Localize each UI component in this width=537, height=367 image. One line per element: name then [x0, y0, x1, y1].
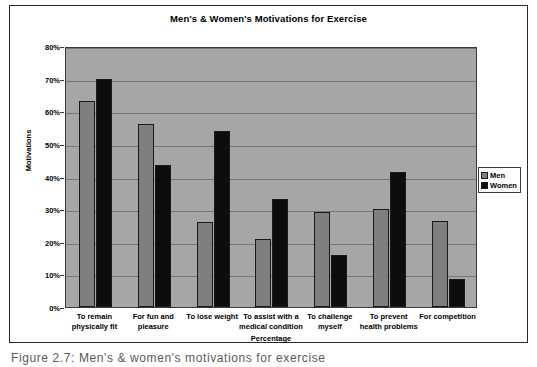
bar-group	[125, 48, 184, 307]
y-axis-tick: 10%	[16, 271, 60, 280]
y-axis-tick: 60%	[16, 108, 60, 117]
y-axis-tick: 80%	[16, 43, 60, 52]
legend-swatch-icon	[481, 182, 488, 189]
bar-group	[243, 48, 302, 307]
bar-group	[301, 48, 360, 307]
legend-swatch-icon	[481, 172, 488, 179]
bar-women[interactable]	[155, 165, 171, 307]
bar-group	[360, 48, 419, 307]
bar-men[interactable]	[255, 239, 271, 308]
plot-area	[65, 47, 477, 308]
y-axis-tick-labels: 0%10%20%30%40%50%60%70%80%	[10, 47, 60, 308]
bar-women[interactable]	[214, 131, 230, 307]
y-axis-tick: 40%	[16, 173, 60, 182]
y-axis-tick: 70%	[16, 75, 60, 84]
legend-label: Men	[490, 171, 505, 180]
bar-women[interactable]	[331, 255, 347, 307]
legend-item[interactable]: Men	[481, 170, 517, 180]
bar-men[interactable]	[138, 124, 154, 307]
legend-item[interactable]: Women	[481, 180, 517, 190]
y-axis-tick-mark	[60, 275, 64, 276]
figure-caption: Figure 2.7: Men's & women's motivations …	[11, 351, 326, 365]
bar-men[interactable]	[373, 209, 389, 307]
y-axis-tick-mark	[60, 308, 64, 309]
x-axis-tick: For competition	[412, 312, 483, 322]
y-axis-tick-mark	[60, 112, 64, 113]
bar-group	[66, 48, 125, 307]
chart-title: Men's & Women's Motivations for Exercise	[10, 13, 527, 24]
x-axis-tick-line: For competition	[412, 312, 483, 322]
y-axis-tick: 30%	[16, 206, 60, 215]
bars-layer	[66, 48, 476, 307]
bar-men[interactable]	[314, 212, 330, 307]
bar-women[interactable]	[390, 172, 406, 307]
bar-women[interactable]	[272, 199, 288, 307]
y-axis-tick-mark	[60, 80, 64, 81]
bar-group	[419, 48, 478, 307]
y-axis-tick: 0%	[16, 304, 60, 313]
y-axis-tick: 50%	[16, 140, 60, 149]
y-axis-tick-mark	[60, 178, 64, 179]
bar-men[interactable]	[79, 101, 95, 307]
bar-women[interactable]	[96, 79, 112, 307]
bar-women[interactable]	[449, 279, 465, 307]
bar-men[interactable]	[197, 222, 213, 307]
bar-group	[184, 48, 243, 307]
y-axis-tick-mark	[60, 47, 64, 48]
figure-frame: Men's & Women's Motivations for Exercise…	[9, 5, 528, 343]
bar-men[interactable]	[432, 221, 448, 307]
x-axis-title: Percentage	[65, 334, 477, 343]
y-axis-tick-mark	[60, 243, 64, 244]
y-axis-tick-mark	[60, 210, 64, 211]
y-axis-tick-mark	[60, 145, 64, 146]
legend-label: Women	[490, 181, 517, 190]
x-axis-tick-line: pleasure	[118, 322, 189, 332]
x-axis-tick-line: health problems	[353, 322, 424, 332]
legend: MenWomen	[478, 167, 521, 193]
y-axis-tick: 20%	[16, 238, 60, 247]
